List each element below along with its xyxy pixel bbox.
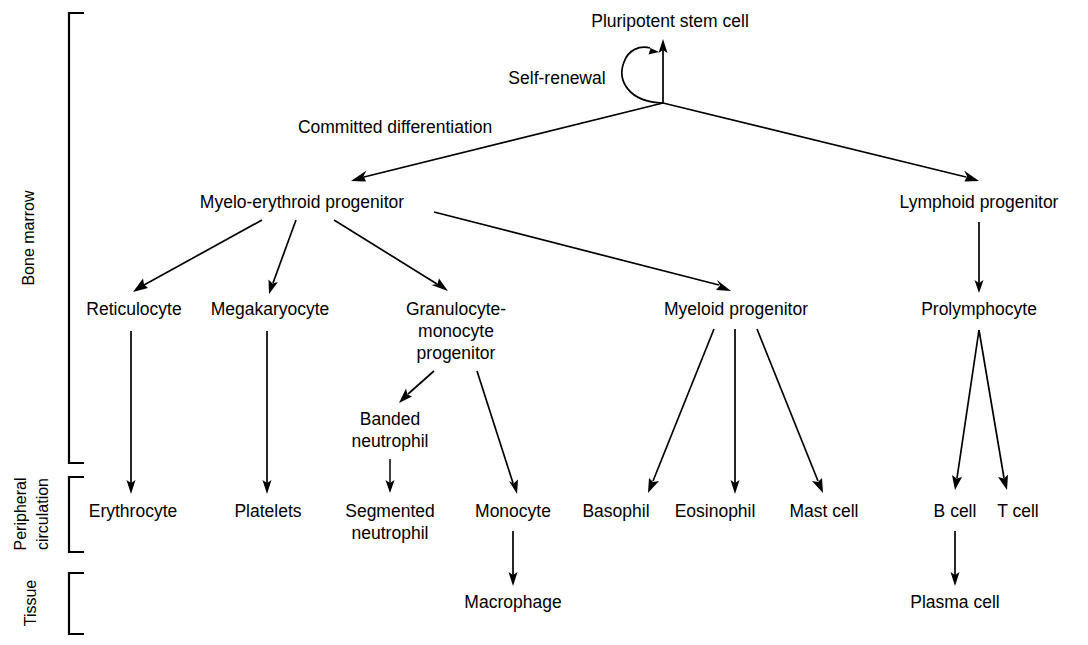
node-myeloid-progenitor[interactable]: Myeloid progenitor [664,299,808,319]
node-prolymphocyte[interactable]: Prolymphocyte [921,299,1037,319]
node-myelo-erythroid-progenitor[interactable]: Myelo-erythroid progenitor [200,192,404,212]
node-segmented-neutrophil-line1: Segmented [345,501,435,521]
node-segmented-neutrophil[interactable]: Segmented neutrophil [345,501,435,543]
hematopoiesis-diagram: Bone marrow Peripheral circulation Tissu… [0,0,1088,645]
compartment-bracket-labels: Bone marrow Peripheral circulation Tissu… [12,190,51,626]
node-granulocyte-monocyte-progenitor-line1: Granulocyte- [406,299,506,319]
edge-myelo-to-granulocyte-monocyte-progenitor [334,220,448,291]
label-self-renewal: Self-renewal [508,68,605,88]
edge-myeloid-to-basophil [648,329,714,493]
edge-hub-to-pluripotent-stem-cell [659,39,668,103]
node-monocyte[interactable]: Monocyte [475,501,551,521]
arrow-head-icon [509,480,518,495]
node-megakaryocyte[interactable]: Megakaryocyte [211,299,330,319]
label-committed-differentiation: Committed differentiation [298,117,492,137]
node-granulocyte-monocyte-progenitor-line2: monocyte [418,321,494,341]
node-mast-cell[interactable]: Mast cell [789,501,858,521]
node-lymphoid-progenitor[interactable]: Lymphoid progenitor [900,192,1059,212]
node-basophil[interactable]: Basophil [582,501,649,521]
edge-prolymphocyte-to-b-cell [952,330,979,490]
node-granulocyte-monocyte-progenitor-line3: progenitor [417,343,496,363]
edge-hub-to-lymphoid-progenitor [663,103,979,182]
arrow-head-icon [399,389,412,404]
edge-myeloid-to-eosinophil [731,329,740,494]
node-b-cell[interactable]: B cell [934,501,977,521]
node-eosinophil[interactable]: Eosinophil [675,501,756,521]
edge-prolymphocyte-to-t-cell [979,330,1008,490]
node-macrophage[interactable]: Macrophage [464,592,561,612]
arrow-head-icon [351,171,367,182]
edge-gmp-to-monocyte [477,371,518,494]
edge-reticulocyte-to-erythrocyte [127,331,136,494]
bracket-label-tissue: Tissue [22,580,39,627]
arrow-head-icon [432,279,449,292]
node-erythrocyte[interactable]: Erythrocyte [89,501,178,521]
node-banded-neutrophil-line1: Banded [360,409,420,429]
bracket-label-peripheral-circulation-line1: Peripheral [12,478,29,551]
node-plasma-cell[interactable]: Plasma cell [910,592,999,612]
edge-monocyte-to-macrophage [509,531,518,586]
edge-hub-to-myelo-erythroid-progenitor [351,103,663,182]
bracket-label-peripheral-circulation-line2: circulation [34,478,51,550]
node-reticulocyte[interactable]: Reticulocyte [86,299,181,319]
edge-myeloid-to-mast-cell [757,329,823,493]
arrow-head-icon [964,171,979,182]
bracket-tissue [69,573,84,634]
node-granulocyte-monocyte-progenitor[interactable]: Granulocyte- monocyte progenitor [406,299,506,363]
node-labels: Pluripotent stem cell Myelo-erythroid pr… [86,11,1058,612]
bracket-label-bone-marrow: Bone marrow [20,190,37,286]
edge-myelo-to-megakaryocyte [269,220,297,294]
edge-gmp-to-banded-neutrophil [399,371,434,403]
edge-myelo-to-reticulocyte [133,220,262,292]
edge-megakaryocyte-to-platelets [263,331,272,494]
node-platelets[interactable]: Platelets [234,501,301,521]
node-t-cell[interactable]: T cell [997,501,1039,521]
compartment-brackets [69,13,84,634]
edge-lymphoid-to-prolymphocyte [975,222,984,293]
edge-myelo-to-myeloid-progenitor [434,212,731,291]
node-pluripotent-stem-cell[interactable]: Pluripotent stem cell [591,11,749,31]
edge-banded-to-segmented-neutrophil [386,459,395,493]
diagram-canvas: Bone marrow Peripheral circulation Tissu… [0,0,1088,645]
edge-self-renewal-loop [622,46,663,104]
process-labels: Self-renewal Committed differentiation [298,68,606,137]
arrow-head-icon [133,279,148,293]
bracket-bone-marrow [69,13,84,463]
node-segmented-neutrophil-line2: neutrophil [352,523,429,543]
edge-b-cell-to-plasma-cell [951,531,960,586]
bracket-peripheral-circulation [69,477,84,552]
node-banded-neutrophil-line2: neutrophil [352,431,429,451]
node-banded-neutrophil[interactable]: Banded neutrophil [352,409,429,451]
